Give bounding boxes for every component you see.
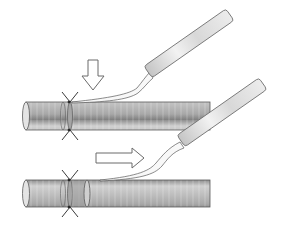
arrow-down-icon	[82, 60, 104, 90]
instrument-handle-top	[144, 9, 234, 78]
arrow-right-icon	[96, 148, 144, 168]
suture-diagram	[0, 0, 287, 229]
tube-bottom	[23, 180, 211, 207]
tube-top	[23, 102, 211, 130]
panel-bottom	[23, 78, 267, 217]
